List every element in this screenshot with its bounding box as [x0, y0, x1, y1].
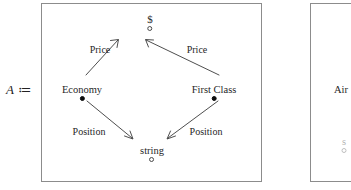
- edge-label-price-left: Price: [90, 44, 111, 55]
- definition-label: A ≔: [6, 82, 32, 98]
- node-air-partial[interactable]: Air: [334, 84, 348, 95]
- edge-label-position-right: Position: [190, 126, 223, 137]
- node-string-label: string: [140, 145, 164, 156]
- node-air-label: Air: [334, 84, 348, 95]
- edge-label-price-right: Price: [187, 44, 208, 55]
- hollow-circle-icon: [149, 157, 154, 162]
- node-economy-label: Economy: [62, 84, 102, 95]
- node-partial-clipped[interactable]: s: [342, 136, 347, 153]
- hollow-circle-icon: [148, 26, 153, 31]
- node-first-class-label: First Class: [192, 84, 237, 95]
- node-partial-label: s: [342, 136, 347, 147]
- figure-canvas: A ≔ $: [0, 0, 351, 190]
- node-dollar-label: $: [147, 14, 153, 25]
- hollow-circle-icon: [342, 148, 347, 153]
- node-string[interactable]: string: [140, 145, 164, 162]
- arrow-first-class-to-dollar: [146, 40, 220, 76]
- edge-label-position-left: Position: [73, 126, 106, 137]
- filled-circle-icon: [80, 96, 85, 101]
- node-dollar[interactable]: $: [147, 14, 153, 31]
- node-first-class[interactable]: First Class: [192, 84, 237, 101]
- filled-circle-icon: [211, 96, 216, 101]
- node-economy[interactable]: Economy: [62, 84, 102, 101]
